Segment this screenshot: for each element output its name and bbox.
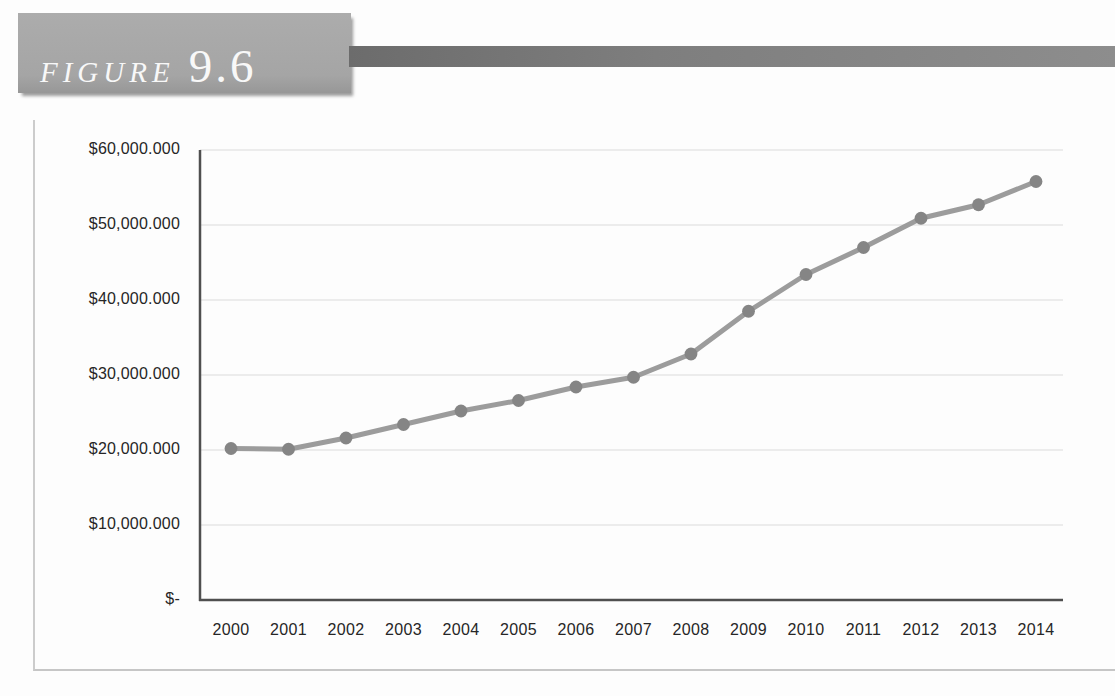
data-point xyxy=(742,305,755,318)
x-tick-label: 2003 xyxy=(373,621,435,639)
data-point xyxy=(397,418,410,431)
x-tick-label: 2007 xyxy=(603,621,665,639)
x-tick-label: 2005 xyxy=(488,621,550,639)
data-point xyxy=(455,405,468,418)
y-tick-label: $50,000.000 xyxy=(30,215,180,233)
x-tick-label: 2009 xyxy=(718,621,780,639)
x-tick-label: 2006 xyxy=(545,621,607,639)
data-line xyxy=(231,182,1036,450)
y-tick-label: $- xyxy=(30,590,180,608)
data-point xyxy=(685,348,698,361)
data-point xyxy=(282,443,295,456)
x-tick-label: 2008 xyxy=(660,621,722,639)
y-tick-label: $60,000.000 xyxy=(30,140,180,158)
x-tick-label: 2000 xyxy=(200,621,262,639)
x-tick-label: 2014 xyxy=(1005,621,1067,639)
y-tick-label: $20,000.000 xyxy=(30,440,180,458)
data-point xyxy=(225,442,238,455)
y-tick-label: $30,000.000 xyxy=(30,365,180,383)
x-tick-label: 2004 xyxy=(430,621,492,639)
x-tick-label: 2010 xyxy=(775,621,837,639)
y-tick-label: $10,000.000 xyxy=(30,515,180,533)
y-tick-label: $40,000.000 xyxy=(30,290,180,308)
x-tick-label: 2013 xyxy=(948,621,1010,639)
data-point xyxy=(627,371,640,384)
x-tick-label: 2002 xyxy=(315,621,377,639)
data-point xyxy=(800,268,813,281)
x-tick-label: 2011 xyxy=(833,621,895,639)
data-point xyxy=(340,432,353,445)
data-point xyxy=(512,394,525,407)
data-point xyxy=(1030,175,1043,188)
data-point xyxy=(972,198,985,211)
data-point xyxy=(915,212,928,225)
x-tick-label: 2001 xyxy=(258,621,320,639)
data-point xyxy=(857,241,870,254)
data-point xyxy=(570,381,583,394)
x-tick-label: 2012 xyxy=(890,621,952,639)
